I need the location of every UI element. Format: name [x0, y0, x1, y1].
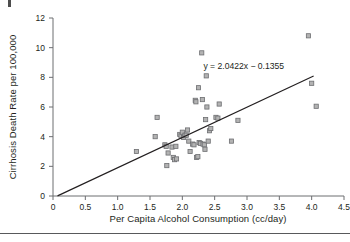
x-tick-label: 4.0 [306, 202, 318, 212]
x-tick-label: 3.0 [241, 202, 253, 212]
y-axis-ticks: 024681012 [36, 13, 53, 201]
data-point [217, 102, 221, 106]
data-point [196, 155, 200, 159]
data-point [174, 157, 178, 161]
y-tick-label: 8 [40, 72, 45, 82]
trendline [58, 76, 314, 196]
x-tick-label: 0 [51, 202, 56, 212]
x-axis-ticks: 00.51.01.52.02.53.03.54.04.5 [51, 196, 350, 212]
y-tick-label: 10 [36, 43, 46, 53]
chart-figure: 024681012 00.51.01.52.02.53.03.54.04.5 y… [0, 0, 350, 242]
y-tick-label: 4 [40, 132, 45, 142]
y-tick-label: 2 [40, 161, 45, 171]
data-point [205, 105, 209, 109]
y-tick-label: 12 [36, 13, 46, 23]
data-point [209, 126, 213, 130]
data-point [203, 147, 207, 151]
data-point [166, 151, 170, 155]
data-point [204, 118, 208, 122]
x-tick-label: 2.0 [176, 202, 188, 212]
data-point [155, 115, 159, 119]
scatter-plot: 024681012 00.51.01.52.02.53.03.54.04.5 y… [0, 0, 350, 232]
x-tick-label: 1.5 [144, 202, 156, 212]
data-point [310, 81, 314, 85]
x-tick-label: 3.5 [273, 202, 285, 212]
data-point [200, 51, 204, 55]
x-axis-title: Per Capita Alcohol Consumption (cc/day) [109, 213, 286, 224]
data-point [200, 97, 204, 101]
footer-divider [0, 233, 350, 234]
y-tick-label: 6 [40, 102, 45, 112]
data-point [236, 118, 240, 122]
x-tick-label: 4.5 [338, 202, 350, 212]
y-axis-title: Cirrhosis Death Rate per 100,000 [7, 35, 18, 180]
data-point [165, 163, 169, 167]
trendline-equation: y = 2.0422x − 0.1355 [203, 61, 284, 71]
data-point [204, 74, 208, 78]
x-tick-label: 1.0 [112, 202, 124, 212]
data-point [188, 149, 192, 153]
data-point [306, 34, 310, 38]
x-tick-label: 0.5 [79, 202, 91, 212]
data-point [134, 149, 138, 153]
data-point [229, 139, 233, 143]
data-point [174, 144, 178, 148]
crop-mark [8, 0, 11, 7]
data-point [194, 100, 198, 104]
data-point [206, 139, 210, 143]
x-tick-label: 2.5 [209, 202, 221, 212]
y-tick-label: 0 [40, 191, 45, 201]
data-point [196, 86, 200, 90]
data-point [153, 135, 157, 139]
data-point [185, 128, 189, 132]
axes-group [53, 18, 344, 196]
data-point [314, 104, 318, 108]
data-point [192, 143, 196, 147]
